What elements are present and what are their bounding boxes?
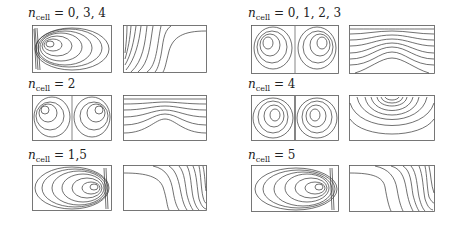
label-sub: cell bbox=[256, 84, 270, 93]
label-value: = 2 bbox=[54, 77, 76, 91]
panel-label-p5: ncell = 1,5 bbox=[28, 148, 87, 164]
label-sub: cell bbox=[36, 84, 50, 93]
label-value: = 4 bbox=[274, 77, 296, 91]
panel-label-p4: ncell = 4 bbox=[248, 77, 295, 93]
panel-label-p1: ncell = 0, 3, 4 bbox=[28, 6, 106, 22]
streamlines-plot-p1 bbox=[32, 25, 112, 73]
isotherms-plot-p4 bbox=[349, 95, 435, 141]
isotherms-plot-p6 bbox=[349, 165, 435, 212]
label-var: n bbox=[28, 148, 36, 162]
isotherms-plot-p5 bbox=[123, 165, 207, 211]
streamlines-plot-p6 bbox=[251, 165, 339, 212]
streamlines-plot-p3 bbox=[32, 95, 112, 141]
streamlines-plot-p4 bbox=[251, 95, 339, 141]
isotherms-plot-p1 bbox=[123, 25, 207, 73]
streamlines-plot-p5 bbox=[32, 165, 112, 211]
label-value: = 5 bbox=[274, 148, 296, 162]
label-sub: cell bbox=[256, 13, 270, 22]
label-var: n bbox=[248, 148, 256, 162]
isotherms-plot-p2 bbox=[349, 25, 435, 74]
label-value: = 0, 3, 4 bbox=[54, 6, 106, 20]
label-var: n bbox=[28, 77, 36, 91]
label-value: = 1,5 bbox=[54, 148, 87, 162]
label-var: n bbox=[248, 6, 256, 20]
label-var: n bbox=[28, 6, 36, 20]
label-sub: cell bbox=[36, 13, 50, 22]
isotherms-plot-p3 bbox=[123, 95, 207, 141]
panel-label-p6: ncell = 5 bbox=[248, 148, 295, 164]
label-sub: cell bbox=[256, 155, 270, 164]
label-value: = 0, 1, 2, 3 bbox=[274, 6, 341, 20]
streamlines-plot-p2 bbox=[251, 25, 339, 74]
panel-label-p3: ncell = 2 bbox=[28, 77, 75, 93]
label-sub: cell bbox=[36, 155, 50, 164]
label-var: n bbox=[248, 77, 256, 91]
panel-label-p2: ncell = 0, 1, 2, 3 bbox=[248, 6, 341, 22]
